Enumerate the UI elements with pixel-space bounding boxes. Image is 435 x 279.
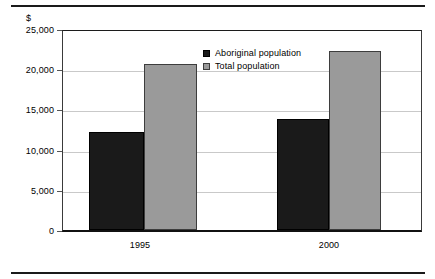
- bottom-divider-rule: [11, 272, 425, 274]
- y-tick-label-0: 0: [2, 227, 54, 236]
- bar-1995-total-population: [144, 64, 197, 230]
- y-tick-label-15000: 15,000: [2, 106, 54, 115]
- legend-swatch-black-square-icon: [203, 50, 210, 57]
- bar-2000-total-population: [329, 51, 381, 230]
- bar-1995-aboriginal-population: [89, 132, 144, 230]
- legend-item-total-population: Total population: [203, 60, 301, 73]
- top-divider-rule: [11, 5, 425, 7]
- y-tick-label-10000: 10,000: [2, 147, 54, 156]
- x-tick-label-1995: 1995: [110, 240, 170, 250]
- y-tick-label-20000: 20,000: [2, 66, 54, 75]
- y-axis-unit-label: $: [26, 13, 31, 23]
- chart-figure: $ 25,000 20,000 15,000 10,000 5,000 0 19…: [0, 0, 435, 279]
- y-tick-label-25000: 25,000: [2, 26, 54, 35]
- x-tick-label-2000: 2000: [299, 240, 359, 250]
- chart-legend: Aboriginal population Total population: [203, 47, 301, 73]
- legend-item-aboriginal-population: Aboriginal population: [203, 47, 301, 60]
- legend-swatch-gray-square-icon: [203, 63, 210, 70]
- legend-label-aboriginal-population: Aboriginal population: [215, 47, 301, 60]
- y-tick-label-5000: 5,000: [2, 187, 54, 196]
- bar-2000-aboriginal-population: [277, 119, 329, 230]
- legend-label-total-population: Total population: [215, 60, 280, 73]
